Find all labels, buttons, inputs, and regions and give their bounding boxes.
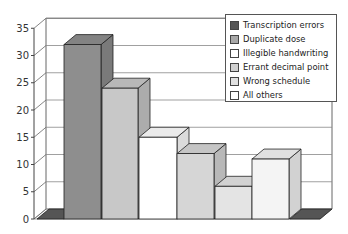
legend-swatch-icon (230, 63, 239, 72)
legend-item: Duplicate dose (230, 32, 332, 46)
legend-swatch-icon (230, 91, 239, 100)
legend-item: Wrong schedule (230, 74, 332, 88)
legend-label: Wrong schedule (243, 76, 310, 86)
legend-label: All others (243, 90, 283, 100)
legend-item: Transcription errors (230, 18, 332, 32)
legend-item: Illegible handwriting (230, 46, 332, 60)
y-tick-label: 10 (16, 159, 29, 170)
legend-label: Illegible handwriting (243, 48, 328, 58)
bar-all-others (252, 149, 301, 219)
legend-item: All others (230, 88, 332, 102)
legend-swatch-icon (230, 77, 239, 86)
y-tick-label: 25 (16, 77, 29, 88)
legend-swatch-icon (230, 21, 239, 30)
y-tick-label: 20 (16, 105, 29, 116)
y-tick-label: 5 (23, 186, 29, 197)
y-axis: 05101520253035 (16, 23, 34, 225)
legend-label: Duplicate dose (243, 34, 306, 44)
legend: Transcription errorsDuplicate doseIllegi… (225, 14, 337, 102)
legend-swatch-icon (230, 49, 239, 58)
legend-label: Transcription errors (243, 20, 324, 30)
y-tick-label: 35 (16, 23, 29, 34)
y-tick-label: 30 (16, 50, 29, 61)
y-tick-label: 0 (23, 214, 29, 225)
legend-item: Errant decimal point (230, 60, 332, 74)
legend-swatch-icon (230, 35, 239, 44)
y-tick-label: 15 (16, 132, 29, 143)
legend-label: Errant decimal point (243, 62, 328, 72)
